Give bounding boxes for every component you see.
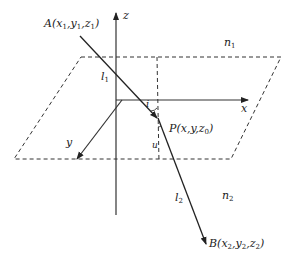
y-axis [77, 100, 122, 159]
refraction-angle-label: u [152, 141, 158, 150]
incidence-angle-label: i [146, 99, 149, 109]
point-b-label: B(x2,y2,z2) [209, 238, 264, 251]
ray-l1-label: l1 [101, 71, 109, 84]
incidence-angle-arc [151, 108, 157, 111]
refracted-ray [158, 118, 206, 244]
y-axis-label: y [66, 137, 72, 148]
refraction-diagram: A(x1,y1,z1) z x y n1 n2 l1 l2 i u P(x,y,… [0, 0, 286, 258]
z-axis-label: z [123, 10, 129, 21]
refraction-angle-arc [158, 126, 161, 127]
ray-l2-label: l2 [175, 192, 183, 205]
diagram-canvas [0, 0, 286, 258]
x-axis-label: x [241, 103, 247, 114]
medium-n1-label: n1 [224, 37, 236, 50]
medium-n2-label: n2 [222, 190, 234, 203]
point-a-label: A(x1,y1,z1) [44, 18, 99, 31]
point-p-label: P(x,y,z0) [169, 123, 213, 136]
